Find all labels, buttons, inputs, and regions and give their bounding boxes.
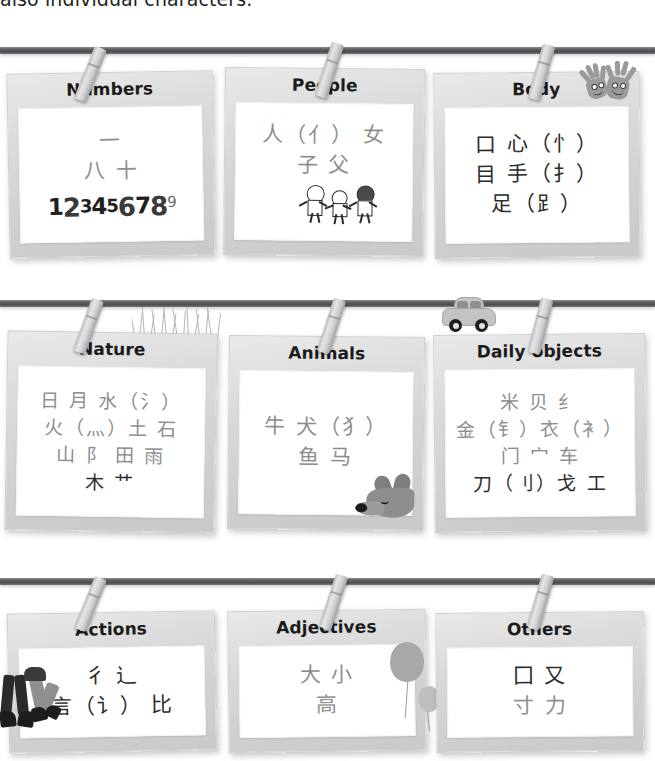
glyph-line: 高 — [316, 691, 339, 721]
dancing-legs-illustration — [0, 675, 60, 737]
flashcard-animals[interactable]: Animals 牛 犬（犭） 鱼 马 — [227, 335, 425, 531]
card-sheet-body: 口 心（忄） 目 手（扌） 足（⻊） — [444, 106, 629, 244]
glyph-line: 山 阝 田 雨 — [56, 441, 165, 470]
card-row-2: Nature 日 月 水（氵） 火（灬）土 石 山 阝 田 雨 木 艹 Anim… — [0, 288, 655, 556]
card-row-3: Actions 彳 辶 言（讠） 比 Adjectives 大 小 高 — [0, 570, 655, 761]
glyph-line: 寸 力 — [513, 692, 568, 722]
glyph-line: 目 手（扌） — [475, 160, 599, 191]
flashcard-others[interactable]: Others 囗 又 寸 力 — [435, 611, 644, 753]
card-sheet-numbers: 一 八 十 123456789 — [18, 105, 204, 243]
glyph-line: 米 贝 纟 — [500, 389, 579, 417]
glyph-line: 足（⻊） — [491, 190, 583, 221]
glyph-line: 刀（刂）戈 工 — [473, 469, 607, 497]
card-title-actions: Actions — [8, 617, 214, 641]
flashcard-daily-objects[interactable]: Daily objects 米 贝 纟 金（钅）衣（衤） 门 宀 车 刀（刂）戈… — [433, 333, 647, 533]
flashcard-board: Numbers 一 八 十 123456789 People 人（亻） 女 子 … — [0, 0, 655, 761]
glyph-line: 鱼 马 — [298, 443, 353, 473]
card-row-1: Numbers 一 八 十 123456789 People 人（亻） 女 子 … — [0, 20, 655, 285]
glyph-line: 囗 又 — [512, 662, 567, 692]
glyph-line: 火（灬）土 石 — [44, 414, 178, 443]
flashcard-nature[interactable]: Nature 日 月 水（氵） 火（灬）土 石 山 阝 田 雨 木 艹 — [4, 330, 217, 533]
glyph-line: 子 父 — [296, 151, 351, 181]
card-sheet-daily-objects: 米 贝 纟 金（钅）衣（衤） 门 宀 车 刀（刂）戈 工 — [444, 368, 635, 518]
glyph-line: 彳 辶 — [84, 662, 139, 693]
card-sheet-others: 囗 又 寸 力 — [447, 646, 634, 738]
glyph-line: 人（亻） 女 — [262, 121, 386, 152]
glyph-line: 一 — [99, 126, 123, 156]
card-title-numbers: Numbers — [8, 77, 212, 101]
numbers-doodle: 123456789 — [48, 191, 176, 223]
glyph-line: 木 艹 — [85, 469, 135, 497]
glyph-line: 言（讠） 比 — [50, 691, 174, 723]
glyph-line: 口 心（忄） — [475, 130, 599, 161]
card-sheet-people: 人（亻） 女 子 父 — [234, 102, 413, 242]
children-illustration — [234, 180, 412, 224]
glyph-line: 日 月 水（氵） — [40, 387, 182, 416]
glyph-line: 门 宀 车 — [501, 443, 580, 471]
card-sheet-nature: 日 月 水（氵） 火（灬）土 石 山 阝 田 雨 木 艹 — [16, 366, 206, 519]
flashcard-numbers[interactable]: Numbers 一 八 十 123456789 — [6, 70, 215, 259]
car-illustration — [442, 296, 508, 332]
glyph-line: 金（钅）衣（衤） — [456, 415, 624, 443]
card-title-nature: Nature — [8, 337, 216, 360]
glyph-line: 大 小 — [299, 661, 354, 691]
glyph-line: 牛 犬（犭） — [264, 413, 388, 444]
glyph-line: 八 十 — [84, 156, 139, 187]
fox-illustration — [358, 475, 426, 524]
